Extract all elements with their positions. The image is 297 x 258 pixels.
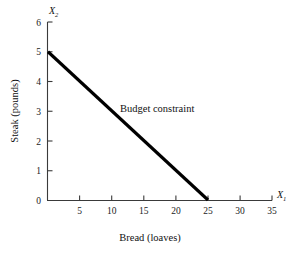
budget-constraint-chart: 6 5 4 3 2 1 0 5 10 15 20 25 30 35 X2 X1 … — [0, 0, 297, 258]
x-tick-label-35: 35 — [267, 206, 277, 216]
chart-canvas: 6 5 4 3 2 1 0 5 10 15 20 25 30 35 X2 X1 … — [0, 0, 297, 258]
y-tick-label-1: 1 — [36, 166, 41, 176]
y-tick-label-3: 3 — [36, 107, 41, 117]
x-axis-ticks — [80, 196, 272, 201]
y-axis-variable-name: X2 — [48, 5, 59, 18]
y-tick-label-4: 4 — [36, 77, 41, 87]
budget-constraint-line — [48, 52, 208, 200]
x-axis-title: Bread (loaves) — [119, 232, 181, 244]
y-axis-ticks — [48, 22, 53, 171]
budget-constraint-annotation: Budget constraint — [120, 103, 194, 114]
x-tick-label-30: 30 — [235, 206, 245, 216]
y-axis-title: Steak (pounds) — [9, 79, 21, 143]
y-tick-label-2: 2 — [36, 137, 41, 147]
x-tick-label-25: 25 — [203, 206, 213, 216]
y-axis-variable-subscript: 2 — [55, 11, 59, 18]
x-tick-label-10: 10 — [107, 206, 117, 216]
y-tick-label-5: 5 — [36, 47, 41, 57]
x-tick-label-15: 15 — [139, 206, 149, 216]
x-tick-label-5: 5 — [77, 206, 82, 216]
x-axis-variable-name: X1 — [276, 189, 286, 202]
x-tick-label-20: 20 — [171, 206, 181, 216]
y-tick-label-0: 0 — [36, 196, 41, 206]
x-axis-variable-subscript: 1 — [283, 195, 286, 202]
y-tick-label-6: 6 — [36, 18, 41, 28]
